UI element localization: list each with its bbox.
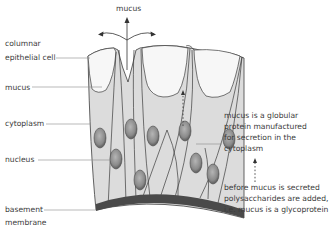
arrow-right-icon — [151, 32, 157, 37]
note-line: before mucus is secreted — [224, 182, 320, 193]
label-mucus-top: mucus — [116, 3, 141, 14]
arrow-up-icon — [125, 17, 130, 23]
note-line: cytoplasm — [224, 143, 263, 154]
label-epithelial-cell: epithelial cell — [5, 52, 56, 63]
note-line: i.e. mucus is a glycoprotein — [224, 204, 328, 215]
label-membrane: membrane — [5, 217, 47, 228]
label-cytoplasm: cytoplasm — [5, 118, 44, 129]
arrow-up-icon — [253, 158, 257, 163]
label-columnar: columnar — [5, 38, 41, 49]
label-mucus-left: mucus — [5, 82, 30, 93]
nucleus-icon — [110, 149, 122, 169]
nucleus-icon — [94, 128, 106, 148]
nucleus-icon — [179, 121, 191, 141]
note-line: mucus is a globular — [224, 110, 298, 121]
note-line: for secretion in the — [224, 132, 296, 143]
dotted-arrow-notes — [253, 158, 257, 182]
nucleus-icon — [125, 119, 137, 139]
arrow-left-icon — [98, 32, 104, 37]
nucleus-icon — [147, 126, 159, 146]
nucleus-icon — [190, 153, 202, 173]
note-line: protein manufactured — [224, 121, 307, 132]
note-line: polysaccharides are added, — [224, 193, 328, 204]
nucleus-icon — [207, 164, 219, 184]
label-nucleus: nucleus — [5, 154, 34, 165]
nucleus-icon — [134, 170, 146, 190]
label-basement: basement — [5, 204, 43, 215]
